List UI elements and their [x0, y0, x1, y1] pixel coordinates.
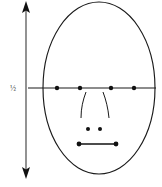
mouth-left-corner-dot — [77, 142, 82, 147]
inner-right-eye-corner-dot — [109, 86, 113, 90]
mouth-right-corner-dot — [114, 142, 119, 147]
outer-right-eye-corner-dot — [132, 86, 136, 90]
inner-left-eye-corner-dot — [78, 86, 82, 90]
outer-left-eye-corner-dot — [55, 86, 59, 90]
height-measure-arrow — [22, 1, 30, 179]
diagram-canvas: ½ — [0, 0, 162, 187]
nose-right-side — [103, 92, 109, 118]
right-nostril-dot — [98, 127, 102, 131]
left-nostril-dot — [86, 127, 90, 131]
nose-group — [81, 92, 109, 131]
half-measure-label: ½ — [10, 84, 16, 93]
mouth-group — [77, 142, 119, 147]
nose-left-side — [81, 92, 86, 118]
face-proportion-figure: ½ — [0, 0, 162, 187]
